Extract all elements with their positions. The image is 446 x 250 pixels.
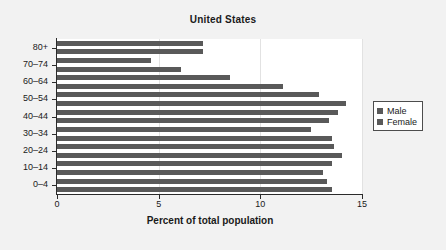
y-tick	[52, 117, 56, 118]
legend-label: Female	[387, 117, 417, 127]
y-tick	[52, 99, 56, 100]
legend-item[interactable]: Female	[377, 116, 417, 127]
x-axis-line	[56, 194, 363, 195]
y-tick-label: 60–64	[0, 76, 48, 86]
bar	[57, 170, 323, 175]
y-tick-label: 50–54	[0, 93, 48, 103]
y-tick-label: 40–44	[0, 111, 48, 121]
bar	[57, 67, 181, 72]
bar	[57, 84, 283, 89]
x-axis-label: Percent of total population	[0, 215, 420, 226]
y-tick-label: 30–34	[0, 128, 48, 138]
y-tick	[52, 168, 56, 169]
legend-label: Male	[387, 106, 407, 116]
y-tick	[52, 82, 56, 83]
y-tick-label: 70–74	[0, 59, 48, 69]
x-tick-label: 15	[347, 199, 377, 209]
bar	[57, 49, 203, 54]
y-tick-label: 10–14	[0, 162, 48, 172]
bar	[57, 161, 332, 166]
y-tick	[52, 185, 56, 186]
legend-swatch-icon	[377, 119, 383, 125]
bar	[57, 41, 203, 46]
bar	[57, 127, 311, 132]
bar	[57, 153, 342, 158]
bar	[57, 187, 332, 192]
legend-item[interactable]: Male	[377, 105, 417, 116]
y-tick	[52, 48, 56, 49]
bar	[57, 136, 332, 141]
bar	[57, 101, 346, 106]
bar	[57, 75, 230, 80]
bar	[57, 144, 334, 149]
chart-title: United States	[0, 14, 446, 25]
bar	[57, 110, 338, 115]
bar	[57, 58, 151, 63]
y-tick	[52, 65, 56, 66]
bar	[57, 179, 327, 184]
chart-figure: United States 051015 0–410–1420–2430–344…	[0, 0, 446, 250]
gridline	[362, 39, 363, 194]
x-tick-label: 0	[42, 199, 72, 209]
bar	[57, 92, 319, 97]
y-tick-label: 80+	[0, 42, 48, 52]
legend-swatch-icon	[377, 108, 383, 114]
y-tick-label: 0–4	[0, 179, 48, 189]
y-tick	[52, 151, 56, 152]
bar	[57, 118, 329, 123]
x-tick-label: 5	[144, 199, 174, 209]
chart-legend: MaleFemale	[373, 101, 423, 131]
x-tick-label: 10	[245, 199, 275, 209]
y-tick	[52, 134, 56, 135]
y-tick-label: 20–24	[0, 145, 48, 155]
